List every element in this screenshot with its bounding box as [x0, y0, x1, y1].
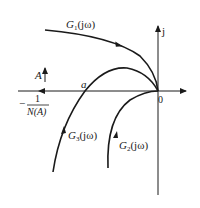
amplitude-label: A	[34, 69, 42, 81]
describing-function-minus: −	[19, 97, 25, 109]
g2-label: G2(jω)	[119, 139, 148, 153]
g1-label: G1(jω)	[66, 18, 95, 32]
describing-function-denominator: N(A)	[26, 106, 47, 118]
g3-label: G3(jω)	[68, 129, 97, 143]
imaginary-axis-label: j	[161, 25, 165, 37]
g2-curve	[108, 91, 158, 168]
describing-function-numerator: 1	[35, 93, 40, 104]
nyquist-diagram: G1(jω) G3(jω) G2(jω) j 0 a A − 1 N(A)	[0, 0, 200, 208]
intersection-point-label: a	[81, 78, 87, 90]
g3-curve	[53, 68, 158, 172]
g2-direction-arrow-icon	[113, 131, 118, 138]
g1-curve	[45, 30, 158, 91]
origin-label: 0	[158, 94, 163, 105]
